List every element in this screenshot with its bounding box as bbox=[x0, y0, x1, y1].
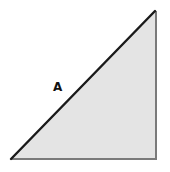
hypotenuse-label: A bbox=[53, 80, 63, 94]
triangle-diagram: A bbox=[0, 0, 170, 172]
